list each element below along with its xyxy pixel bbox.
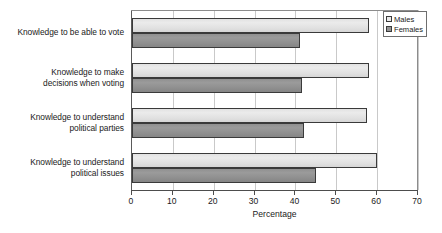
x-tick-0: [131, 191, 132, 195]
legend-label: Males: [394, 15, 414, 24]
category-label-line: political issues: [0, 168, 124, 179]
bar-females-1: [132, 33, 300, 48]
x-axis-line: [131, 190, 418, 191]
category-label-line: Knowledge to make: [0, 67, 124, 78]
bar-males-2: [132, 63, 369, 78]
x-tick-10: [172, 191, 173, 195]
category-label-1: Knowledge to be able to vote: [0, 27, 124, 38]
x-axis-title: Percentage: [131, 209, 418, 219]
x-tick-label-40: 40: [279, 196, 309, 206]
x-tick-label-30: 30: [239, 196, 269, 206]
x-tick-50: [335, 191, 336, 195]
legend-item-males: Males: [386, 14, 423, 24]
gridline-60: [377, 10, 378, 190]
bar-females-3: [132, 123, 304, 138]
legend-label: Females: [394, 25, 423, 34]
legend-swatch-icon-males: [386, 16, 392, 22]
x-tick-label-10: 10: [157, 196, 187, 206]
plot-area: [131, 10, 418, 190]
x-tick-label-60: 60: [361, 196, 391, 206]
category-axis-labels: Knowledge to be able to voteKnowledge to…: [0, 10, 128, 190]
x-tick-30: [254, 191, 255, 195]
category-label-3: Knowledge to understandpolitical parties: [0, 112, 124, 133]
plot-frame-right: [417, 10, 418, 191]
category-label-line: decisions when voting: [0, 78, 124, 89]
x-tick-label-50: 50: [320, 196, 350, 206]
category-label-line: Knowledge to understand: [0, 112, 124, 123]
bar-chart: Knowledge to be able to voteKnowledge to…: [0, 0, 442, 233]
bar-males-1: [132, 18, 369, 33]
plot-frame-top: [131, 10, 418, 11]
x-tick-70: [417, 191, 418, 195]
legend-item-females: Females: [386, 24, 423, 34]
category-label-4: Knowledge to understandpolitical issues: [0, 157, 124, 178]
bar-females-4: [132, 168, 316, 183]
x-tick-20: [213, 191, 214, 195]
category-label-2: Knowledge to makedecisions when voting: [0, 67, 124, 88]
gridline-70: [418, 10, 419, 190]
x-tick-label-70: 70: [402, 196, 432, 206]
legend-swatch-icon-females: [386, 26, 392, 32]
x-tick-label-0: 0: [116, 196, 146, 206]
bar-males-4: [132, 153, 377, 168]
category-label-line: Knowledge to be able to vote: [0, 27, 124, 38]
chart-legend: MalesFemales: [383, 11, 427, 37]
bar-males-3: [132, 108, 367, 123]
category-label-line: political parties: [0, 123, 124, 134]
x-tick-label-20: 20: [198, 196, 228, 206]
bar-females-2: [132, 78, 302, 93]
x-tick-40: [294, 191, 295, 195]
category-label-line: Knowledge to understand: [0, 157, 124, 168]
x-tick-60: [376, 191, 377, 195]
